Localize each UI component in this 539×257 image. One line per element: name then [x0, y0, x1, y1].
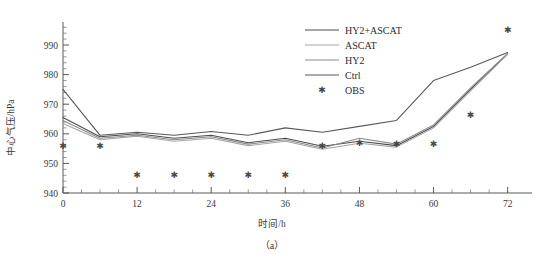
obs-marker: ✱ — [393, 139, 401, 149]
x-tick-label: 12 — [132, 199, 142, 209]
obs-marker: ✱ — [504, 25, 512, 35]
x-tick-label: 36 — [281, 199, 291, 209]
obs-scatter-group: ✱✱✱✱✱✱✱✱✱✱✱✱✱ — [59, 25, 511, 180]
obs-marker: ✱ — [356, 138, 364, 148]
obs-marker: ✱ — [59, 141, 67, 151]
x-axis-title: 时间/h — [258, 218, 286, 229]
obs-marker: ✱ — [207, 170, 215, 180]
x-tick-labels: 0122436486072 — [61, 199, 513, 209]
obs-marker: ✱ — [430, 139, 438, 149]
series-line-ctrl — [63, 52, 508, 135]
obs-marker: ✱ — [282, 170, 290, 180]
y-tick-labels: 940950960970980990 — [44, 41, 59, 199]
x-tick-label: 72 — [503, 199, 513, 209]
series-line-hy2 — [63, 53, 508, 148]
x-tick-label: 0 — [61, 199, 66, 209]
legend-swatch-obs: ✱ — [318, 85, 326, 95]
obs-marker: ✱ — [244, 170, 252, 180]
y-tick-label: 980 — [44, 70, 59, 80]
obs-marker: ✱ — [170, 170, 178, 180]
x-tick-label: 24 — [206, 199, 216, 209]
legend-label-ascat: ASCAT — [345, 40, 377, 51]
panel-caption: （a） — [260, 240, 284, 251]
obs-marker: ✱ — [133, 170, 141, 180]
y-axis-title: 中心气压/hPa — [5, 99, 16, 157]
figure-panel-a: 940950960970980990 0122436486072 ✱✱✱✱✱✱✱… — [0, 0, 539, 257]
obs-marker: ✱ — [467, 110, 475, 120]
legend-label-hy2-ascat: HY2+ASCAT — [345, 25, 402, 36]
chart-legend: HY2+ASCATASCATHY2Ctrl✱OBS — [305, 25, 402, 96]
x-tick-label: 48 — [355, 199, 365, 209]
x-tick-label: 60 — [429, 199, 439, 209]
y-tick-label: 990 — [44, 41, 59, 51]
axes-group — [63, 22, 532, 193]
legend-label-ctrl: Ctrl — [345, 70, 361, 81]
axis-ticks — [63, 27, 508, 193]
y-tick-label: 960 — [44, 129, 59, 139]
legend-label-obs: OBS — [345, 85, 364, 96]
data-series-group — [63, 52, 508, 149]
obs-marker: ✱ — [319, 141, 327, 151]
obs-marker: ✱ — [96, 141, 104, 151]
series-line-ascat — [63, 54, 508, 149]
y-tick-label: 950 — [44, 159, 59, 169]
y-tick-label: 970 — [44, 100, 59, 110]
y-tick-label: 940 — [44, 189, 59, 199]
legend-label-hy2: HY2 — [345, 55, 364, 66]
chart-canvas: 940950960970980990 0122436486072 ✱✱✱✱✱✱✱… — [0, 0, 539, 257]
